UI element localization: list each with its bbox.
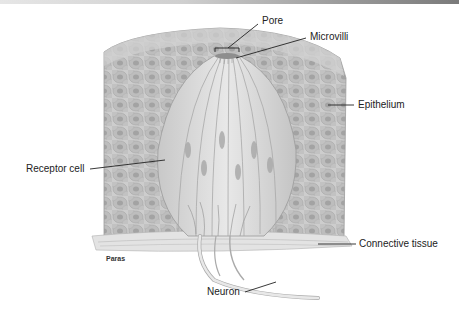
- label-pore: Pore: [262, 15, 283, 27]
- taste-bud-illustration: [0, 0, 459, 315]
- label-microvilli: Microvilli: [310, 31, 348, 43]
- label-receptor-cell: Receptor cell: [26, 163, 84, 175]
- artist-credit: Paras: [106, 255, 125, 262]
- neuron-leader: [245, 282, 276, 292]
- label-epithelium: Epithelium: [358, 99, 405, 111]
- label-neuron: Neuron: [207, 286, 240, 298]
- label-connective-tissue: Connective tissue: [359, 238, 438, 250]
